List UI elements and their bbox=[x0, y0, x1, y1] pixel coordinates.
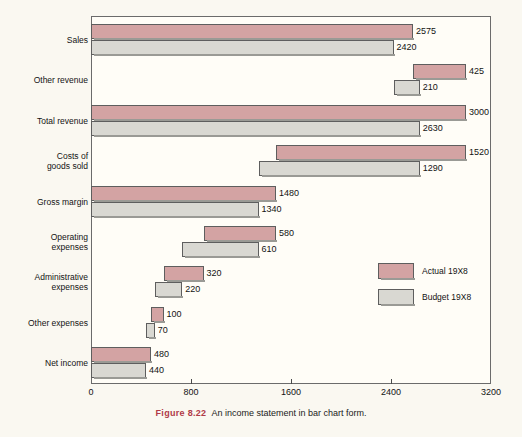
bar-actual bbox=[91, 347, 151, 362]
bar-shadow bbox=[94, 54, 395, 56]
legend-swatch-budget bbox=[378, 289, 414, 305]
chart-legend: Actual 19X8Budget 19X8 bbox=[378, 262, 488, 314]
bar-actual bbox=[91, 186, 276, 201]
axis-tick-label: 1600 bbox=[281, 387, 301, 397]
category-label: Administrative expenses bbox=[2, 272, 88, 292]
bar-value-label: 580 bbox=[279, 228, 294, 239]
bar-actual bbox=[276, 145, 466, 160]
bar-actual bbox=[204, 226, 277, 241]
bar-value-label: 2575 bbox=[416, 26, 436, 37]
category-label: Operating expenses bbox=[2, 232, 88, 252]
legend-swatch-shadow bbox=[381, 304, 415, 306]
bar-shadow bbox=[158, 296, 184, 298]
axis-tick-label: 800 bbox=[183, 387, 198, 397]
axis-tick-label: 0 bbox=[88, 387, 93, 397]
bar-shadow bbox=[94, 216, 260, 218]
bar-shadow bbox=[94, 377, 147, 379]
bar-actual bbox=[91, 105, 466, 120]
bar-value-label: 2420 bbox=[397, 42, 417, 53]
bar-value-label: 610 bbox=[262, 244, 277, 255]
figure-number: Figure 8.22 bbox=[156, 408, 207, 418]
bar-budget bbox=[91, 363, 146, 378]
bar-value-label: 440 bbox=[149, 365, 164, 376]
bar-value-label: 2630 bbox=[423, 123, 443, 134]
bar-actual bbox=[164, 266, 204, 281]
bar-budget bbox=[91, 40, 394, 55]
category-label: Net income bbox=[2, 358, 88, 368]
category-label: Sales bbox=[2, 35, 88, 45]
category-axis: SalesOther revenueTotal revenueCosts of … bbox=[0, 0, 88, 437]
bar-value-label: 220 bbox=[185, 284, 200, 295]
category-label: Total revenue bbox=[2, 116, 88, 126]
axis-tick-label: 3200 bbox=[481, 387, 501, 397]
bar-value-label: 210 bbox=[423, 82, 438, 93]
legend-item: Budget 19X8 bbox=[378, 288, 488, 305]
bar-budget bbox=[394, 80, 420, 95]
bar-shadow bbox=[94, 135, 421, 137]
bar-shadow bbox=[262, 175, 421, 177]
bar-value-label: 1290 bbox=[423, 163, 443, 174]
legend-item: Actual 19X8 bbox=[378, 262, 488, 279]
bar-shadow bbox=[397, 94, 421, 96]
bar-value-label: 480 bbox=[154, 349, 169, 360]
bar-value-label: 1480 bbox=[279, 188, 299, 199]
bar-budget bbox=[91, 202, 259, 217]
figure-container: SalesOther revenueTotal revenueCosts of … bbox=[0, 0, 522, 437]
legend-label: Budget 19X8 bbox=[422, 292, 471, 302]
bar-actual bbox=[151, 307, 164, 322]
category-label: Other revenue bbox=[2, 75, 88, 85]
figure-caption: Figure 8.22An income statement in bar ch… bbox=[0, 408, 522, 418]
bar-budget bbox=[146, 323, 155, 338]
bar-value-label: 1340 bbox=[262, 204, 282, 215]
legend-swatch-actual bbox=[378, 263, 414, 279]
axis-tick bbox=[191, 379, 192, 384]
bar-shadow bbox=[416, 78, 467, 80]
bar-actual bbox=[413, 64, 466, 79]
category-label: Other expenses bbox=[2, 318, 88, 328]
bar-value-label: 70 bbox=[158, 325, 168, 336]
bar-shadow bbox=[185, 256, 259, 258]
figure-caption-text: An income statement in bar chart form. bbox=[211, 408, 366, 418]
legend-swatch-shadow bbox=[381, 278, 415, 280]
bar-actual bbox=[91, 24, 413, 39]
bar-budget bbox=[259, 161, 420, 176]
bar-budget bbox=[91, 121, 420, 136]
axis-tick-label: 2400 bbox=[381, 387, 401, 397]
axis-tick bbox=[291, 379, 292, 384]
bar-shadow bbox=[154, 321, 165, 323]
bar-value-label: 100 bbox=[167, 309, 182, 320]
bar-value-label: 425 bbox=[469, 66, 484, 77]
category-label: Gross margin bbox=[2, 197, 88, 207]
legend-label: Actual 19X8 bbox=[422, 266, 468, 276]
bar-value-label: 320 bbox=[207, 268, 222, 279]
category-label: Costs of goods sold bbox=[2, 151, 88, 171]
axis-tick bbox=[391, 379, 392, 384]
bar-budget bbox=[155, 282, 183, 297]
bar-shadow bbox=[149, 337, 156, 339]
bar-value-label: 1520 bbox=[469, 147, 489, 158]
bar-budget bbox=[182, 242, 258, 257]
bar-value-label: 3000 bbox=[469, 107, 489, 118]
